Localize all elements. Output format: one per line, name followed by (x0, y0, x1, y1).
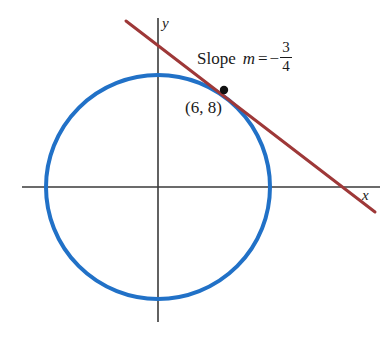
tangent-point-dot (220, 86, 228, 94)
slope-numerator: 3 (280, 40, 292, 57)
slope-minus-sign: − (270, 50, 280, 67)
x-axis-label: x (362, 188, 369, 203)
figure-canvas: y x (6, 8) Slope m = − 3 4 (0, 0, 388, 348)
slope-denominator: 4 (280, 58, 292, 75)
figure-graphics (0, 0, 388, 348)
slope-annotation: Slope m = − 3 4 (197, 41, 292, 76)
slope-variable: m (243, 50, 255, 67)
y-axis-label: y (162, 16, 169, 31)
slope-equals-sign: = (258, 50, 268, 67)
slope-word: Slope (197, 50, 236, 67)
tangent-point-label: (6, 8) (185, 99, 222, 116)
slope-fraction: 3 4 (280, 40, 292, 75)
